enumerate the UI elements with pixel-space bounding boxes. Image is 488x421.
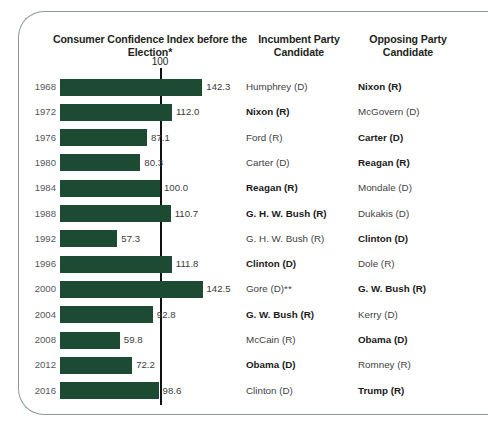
reference-line-label: 100	[132, 56, 188, 67]
incumbent-candidate: G. W. Bush (R)	[246, 309, 314, 320]
chart-row: 197687.1Ford (R)Carter (D)	[0, 127, 449, 152]
confidence-index-bar	[60, 79, 202, 96]
incumbent-candidate: Reagan (R)	[246, 182, 298, 193]
row-year-label: 1988	[22, 208, 56, 219]
row-year-label: 2004	[22, 309, 56, 320]
opposing-candidate: Dole (R)	[358, 258, 394, 269]
bar-value-label: 87.1	[151, 132, 170, 143]
confidence-index-bar	[60, 281, 203, 298]
confidence-index-bar	[60, 332, 120, 349]
incumbent-candidate: Humphrey (D)	[246, 81, 308, 92]
row-year-label: 2000	[22, 283, 56, 294]
incumbent-candidate: Clinton (D)	[246, 258, 296, 269]
row-year-label: 1984	[22, 182, 56, 193]
bar-value-label: 100.0	[164, 182, 188, 193]
confidence-index-bar	[60, 205, 171, 222]
opposing-candidate: Nixon (R)	[358, 81, 402, 92]
page-title: Consumer Confidence Index before the Ele…	[50, 33, 250, 58]
confidence-index-bar	[60, 180, 160, 197]
row-year-label: 1972	[22, 106, 56, 117]
chart-row: 1968142.3Humphrey (D)Nixon (R)	[0, 76, 449, 101]
opposing-candidate: Kerry (D)	[358, 309, 398, 320]
chart-row: 200492.8G. W. Bush (R)Kerry (D)	[0, 304, 449, 329]
chart-row: 2000142.5Gore (D)**G. W. Bush (R)	[0, 278, 449, 303]
incumbent-candidate: Clinton (D)	[246, 385, 293, 396]
opposing-candidate: Obama (D)	[358, 334, 408, 345]
chart-row: 199257.3G. H. W. Bush (R)Clinton (D)	[0, 228, 449, 253]
row-year-label: 2012	[22, 359, 56, 370]
incumbent-candidate: Carter (D)	[246, 157, 290, 168]
incumbent-candidate: G. H. W. Bush (R)	[246, 233, 324, 244]
row-year-label: 1980	[22, 157, 56, 168]
confidence-index-bar	[60, 230, 117, 247]
incumbent-candidate: Obama (D)	[246, 359, 296, 370]
bar-value-label: 92.8	[157, 309, 176, 320]
row-year-label: 1992	[22, 233, 56, 244]
chart-row: 200859.8McCain (R)Obama (D)	[0, 329, 449, 354]
confidence-index-bar	[60, 104, 172, 121]
incumbent-candidate: G. H. W. Bush (R)	[246, 208, 327, 219]
chart-row: 201698.6Clinton (D)Trump (R)	[0, 380, 449, 405]
opposing-candidate: Dukakis (D)	[358, 208, 409, 219]
chart-row: 1972112.0Nixon (R)McGovern (D)	[0, 101, 449, 126]
opposing-candidate: Reagan (R)	[358, 157, 410, 168]
opposing-candidate: Mondale (D)	[358, 182, 412, 193]
row-year-label: 2016	[22, 385, 56, 396]
bar-value-label: 72.2	[136, 359, 155, 370]
opposing-candidate: Carter (D)	[358, 132, 403, 143]
confidence-index-bar	[60, 382, 159, 399]
column-header-opposing: Opposing Party Candidate	[352, 33, 464, 58]
bar-value-label: 59.8	[124, 334, 143, 345]
opposing-candidate: G. W. Bush (R)	[358, 283, 426, 294]
chart-row: 198080.3Carter (D)Reagan (R)	[0, 152, 449, 177]
row-year-label: 1968	[22, 81, 56, 92]
confidence-index-bar	[60, 306, 153, 323]
incumbent-candidate: Gore (D)**	[246, 283, 292, 294]
opposing-candidate: Clinton (D)	[358, 233, 408, 244]
confidence-index-bar	[60, 129, 147, 146]
bar-value-label: 110.7	[175, 208, 198, 219]
column-header-incumbent: Incumbent Party Candidate	[240, 33, 358, 58]
bar-value-label: 80.3	[144, 157, 163, 168]
chart-row: 1996111.8Clinton (D)Dole (R)	[0, 253, 449, 278]
opposing-candidate: Romney (R)	[358, 359, 411, 370]
chart-row: 201272.2Obama (D)Romney (R)	[0, 354, 449, 379]
confidence-index-bar	[60, 256, 172, 273]
incumbent-candidate: McCain (R)	[246, 334, 296, 345]
incumbent-candidate: Nixon (R)	[246, 106, 290, 117]
confidence-index-bar	[60, 357, 132, 374]
chart-row: 1984100.0Reagan (R)Mondale (D)	[0, 177, 449, 202]
bar-value-label: 142.3	[206, 81, 230, 92]
opposing-candidate: Trump (R)	[358, 385, 404, 396]
bar-value-label: 111.8	[176, 258, 199, 269]
incumbent-candidate: Ford (R)	[246, 132, 282, 143]
bar-value-label: 112.0	[176, 106, 199, 117]
row-year-label: 2008	[22, 334, 56, 345]
chart-row: 1988110.7G. H. W. Bush (R)Dukakis (D)	[0, 203, 449, 228]
bar-value-label: 142.5	[207, 283, 231, 294]
bar-value-label: 98.6	[163, 385, 182, 396]
row-year-label: 1996	[22, 258, 56, 269]
opposing-candidate: McGovern (D)	[358, 106, 420, 117]
row-year-label: 1976	[22, 132, 56, 143]
bar-value-label: 57.3	[121, 233, 140, 244]
confidence-index-bar	[60, 154, 140, 171]
